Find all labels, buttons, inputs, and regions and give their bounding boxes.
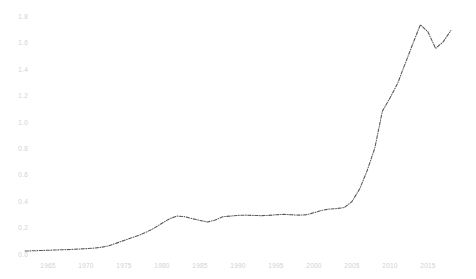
x-tick-label: 1980 bbox=[147, 263, 177, 270]
chart-plot-area bbox=[0, 0, 476, 279]
y-tick-label: 1.4 bbox=[6, 67, 28, 74]
y-tick-label: 0.0 bbox=[6, 252, 28, 259]
x-tick-label: 1990 bbox=[223, 263, 253, 270]
y-tick-label: 0.8 bbox=[6, 146, 28, 153]
y-tick-label: 0.6 bbox=[6, 172, 28, 179]
x-tick-label: 2010 bbox=[375, 263, 405, 270]
line-chart: 0.00.20.40.60.81.01.21.41.61.8 196519701… bbox=[0, 0, 476, 279]
x-tick-label: 2000 bbox=[299, 263, 329, 270]
y-tick-label: 1.8 bbox=[6, 14, 28, 21]
y-tick-label: 1.2 bbox=[6, 93, 28, 100]
x-tick-label: 1970 bbox=[71, 263, 101, 270]
x-tick-label: 1985 bbox=[185, 263, 215, 270]
y-tick-label: 0.2 bbox=[6, 225, 28, 232]
x-tick-label: 1965 bbox=[33, 263, 63, 270]
x-tick-label: 1995 bbox=[261, 263, 291, 270]
x-tick-label: 2015 bbox=[413, 263, 443, 270]
x-tick-label: 1975 bbox=[109, 263, 139, 270]
y-tick-label: 1.6 bbox=[6, 40, 28, 47]
y-tick-label: 0.4 bbox=[6, 199, 28, 206]
y-tick-label: 1.0 bbox=[6, 120, 28, 127]
data-series-line bbox=[25, 25, 451, 251]
x-tick-label: 2005 bbox=[337, 263, 367, 270]
